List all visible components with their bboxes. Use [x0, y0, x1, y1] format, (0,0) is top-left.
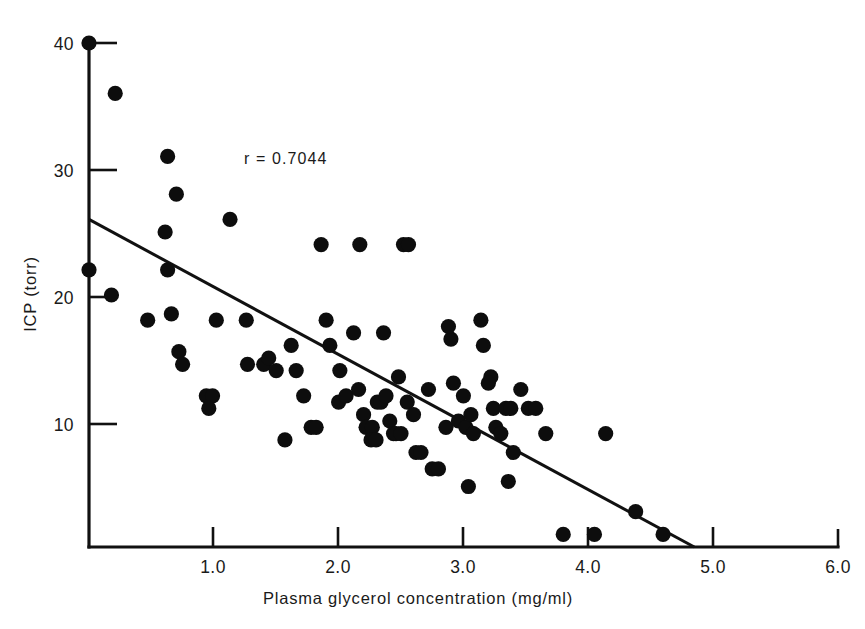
data-point [493, 426, 508, 441]
figure-container: 40 30 20 10 1.0 2.0 3.0 4.0 5.0 6.0 Plas… [0, 0, 865, 629]
data-point [201, 401, 216, 416]
data-point [164, 306, 179, 321]
x-tick-label-1: 1.0 [200, 557, 226, 577]
y-tick-label-40: 40 [54, 34, 74, 54]
data-point [556, 527, 571, 542]
data-point [513, 382, 528, 397]
data-point [401, 237, 416, 252]
data-point [393, 426, 408, 441]
scatter-plot: 40 30 20 10 1.0 2.0 3.0 4.0 5.0 6.0 Plas… [0, 0, 865, 629]
data-point [269, 363, 284, 378]
x-tick-label-2: 2.0 [325, 557, 351, 577]
data-point [296, 388, 311, 403]
data-point [391, 369, 406, 384]
data-point [456, 388, 471, 403]
data-point [319, 313, 334, 328]
data-point [443, 332, 458, 347]
data-point [506, 445, 521, 460]
data-point [277, 432, 292, 447]
data-point [481, 376, 496, 391]
data-point [528, 401, 543, 416]
data-point [160, 149, 175, 164]
data-point [587, 527, 602, 542]
y-tick-label-30: 30 [54, 161, 74, 181]
data-point [413, 445, 428, 460]
data-point [104, 287, 119, 302]
data-point [446, 376, 461, 391]
data-point [441, 319, 456, 334]
data-point [628, 504, 643, 519]
data-point [240, 357, 255, 372]
data-point [289, 363, 304, 378]
regression-line [89, 219, 694, 547]
data-point [598, 426, 613, 441]
data-point [463, 407, 478, 422]
x-tick-label-5: 5.0 [700, 557, 726, 577]
data-points-layer [81, 35, 670, 542]
data-point [81, 35, 96, 50]
data-point [309, 420, 324, 435]
data-point [108, 86, 123, 101]
data-point [81, 262, 96, 277]
data-point [356, 407, 371, 422]
data-point [160, 262, 175, 277]
data-point [376, 325, 391, 340]
x-tick-label-3: 3.0 [450, 557, 476, 577]
correlation-annotation: r = 0.7044 [244, 150, 328, 167]
data-point [655, 527, 670, 542]
data-point [239, 313, 254, 328]
data-point [158, 224, 173, 239]
data-point [352, 237, 367, 252]
y-axis-title: ICP (torr) [21, 256, 39, 332]
data-point [406, 407, 421, 422]
data-point [140, 313, 155, 328]
series-0 [81, 35, 670, 542]
data-point [346, 325, 361, 340]
data-point [476, 338, 491, 353]
data-point [431, 461, 446, 476]
data-point [169, 187, 184, 202]
data-point [473, 313, 488, 328]
data-point [332, 363, 347, 378]
x-tick-label-6: 6.0 [825, 557, 851, 577]
x-tick-label-4: 4.0 [575, 557, 601, 577]
data-point [501, 474, 516, 489]
data-point [368, 432, 383, 447]
data-point [466, 426, 481, 441]
data-point [322, 338, 337, 353]
x-axis-title: Plasma glycerol concentration (mg/ml) [263, 589, 573, 607]
data-point [421, 382, 436, 397]
y-tick-label-20: 20 [54, 288, 74, 308]
data-point [314, 237, 329, 252]
data-point [378, 388, 393, 403]
data-point [175, 357, 190, 372]
x-ticks [213, 527, 713, 547]
data-point [209, 313, 224, 328]
data-point [538, 426, 553, 441]
data-point [222, 212, 237, 227]
data-point [351, 382, 366, 397]
y-tick-label-10: 10 [54, 415, 74, 435]
data-point [461, 479, 476, 494]
data-point [284, 338, 299, 353]
data-point [503, 401, 518, 416]
